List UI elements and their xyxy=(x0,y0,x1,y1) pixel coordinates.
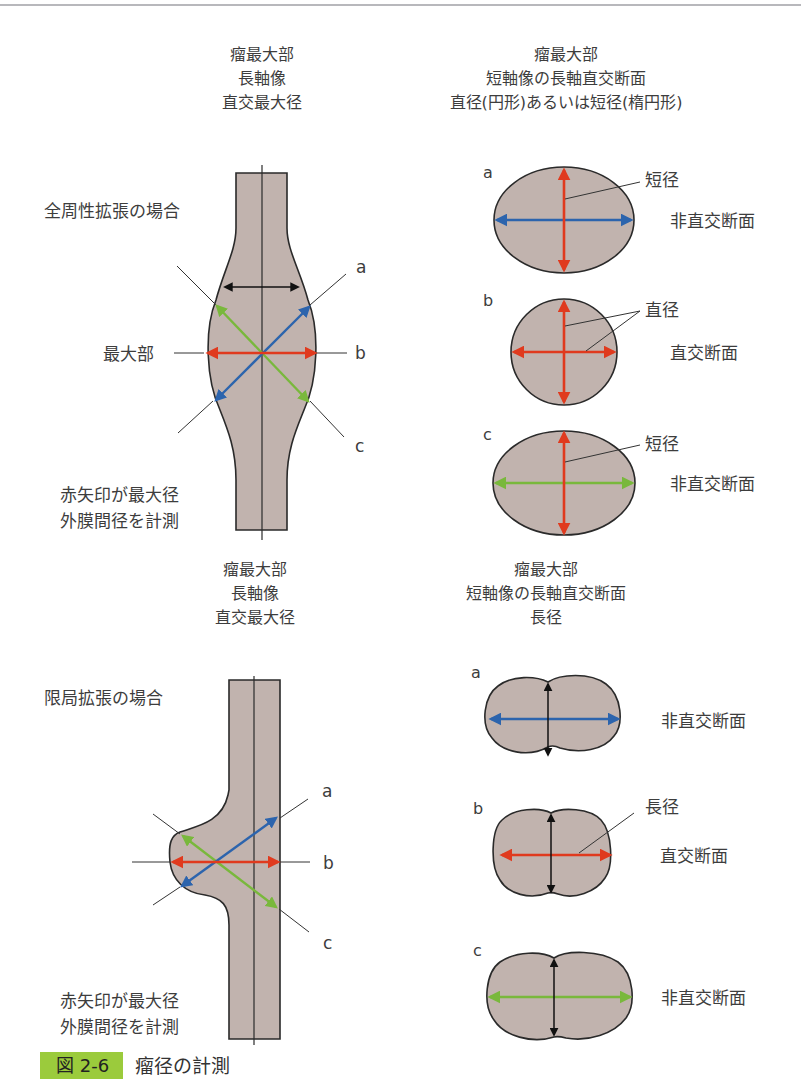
lower-section-a: a 非直交断面 xyxy=(471,663,746,755)
section-letter: c xyxy=(483,425,492,444)
line-label-b: b xyxy=(355,343,366,363)
saccular-case-label: 限局拡張の場合 xyxy=(44,688,163,708)
figure-title: 瘤径の計測 xyxy=(135,1054,230,1078)
header-line: 長軸像 xyxy=(231,584,279,603)
figure-number-badge: 図 2-6 xyxy=(40,1052,123,1079)
upper-section-b: b 直径 直交断面 xyxy=(483,291,738,405)
section-letter: c xyxy=(473,941,482,960)
long-diameter-callout: 長径 xyxy=(645,797,679,817)
upper-long-axis-header: 瘤最大部 長軸像 直交最大径 xyxy=(222,45,302,112)
upper-section-a: a 短径 非直交断面 xyxy=(483,163,755,273)
header-line: 瘤最大部 xyxy=(514,560,578,579)
lower-long-axis-header: 瘤最大部 長軸像 直交最大径 xyxy=(215,560,295,627)
upper-section-c: c 短径 非直交断面 xyxy=(483,425,755,535)
header-line: 長径 xyxy=(530,608,562,627)
header-line: 瘤最大部 xyxy=(230,45,294,64)
short-diameter-callout: 短径 xyxy=(645,434,679,454)
leader-line xyxy=(153,887,180,905)
section-type-label: 非直交断面 xyxy=(661,711,746,731)
upper-short-axis-header: 瘤最大部 短軸像の長軸直交断面 直径(円形)あるいは短径(楕円形) xyxy=(450,45,683,112)
note-line: 外膜間径を計測 xyxy=(60,1017,179,1037)
bilobed-cross-section xyxy=(493,809,611,896)
line-label-b: b xyxy=(323,853,334,873)
section-type-label: 非直交断面 xyxy=(670,474,755,494)
section-type-label: 非直交断面 xyxy=(661,988,746,1008)
leader-line xyxy=(279,909,309,932)
header-line: 瘤最大部 xyxy=(534,45,598,64)
saccular-aneurysm-vessel xyxy=(169,680,280,1039)
aneurysm-diagram: 瘤最大部 長軸像 直交最大径 瘤最大部 短軸像の長軸直交断面 直径(円形)あるい… xyxy=(0,0,801,1082)
leader-line xyxy=(310,401,344,437)
upper-note: 赤矢印が最大径 外膜間径を計測 xyxy=(60,485,179,531)
header-line: 直交最大径 xyxy=(215,608,295,627)
header-line: 長軸像 xyxy=(238,69,286,88)
section-type-label: 直交断面 xyxy=(660,846,728,866)
section-type-label: 非直交断面 xyxy=(670,211,755,231)
leader-line xyxy=(177,266,216,305)
section-letter: b xyxy=(473,799,483,818)
leader-line xyxy=(153,814,180,834)
note-line: 赤矢印が最大径 xyxy=(60,485,179,505)
leader-line xyxy=(280,799,308,818)
lower-section-b: b 長径 直交断面 xyxy=(473,797,728,896)
line-label-c: c xyxy=(355,436,364,456)
header-line: 短軸像の長軸直交断面 xyxy=(486,69,646,88)
header-line: 直交最大径 xyxy=(222,93,302,112)
lower-section-c: c 非直交断面 xyxy=(473,941,746,1040)
short-diameter-callout: 短径 xyxy=(645,170,679,190)
line-label-c: c xyxy=(323,933,332,953)
figure-caption: 図 2-6 瘤径の計測 xyxy=(40,1052,230,1079)
section-letter: a xyxy=(471,663,481,682)
leader-line xyxy=(178,401,213,433)
leader-line xyxy=(310,274,346,305)
note-line: 赤矢印が最大径 xyxy=(60,991,179,1011)
header-line: 直径(円形)あるいは短径(楕円形) xyxy=(450,93,683,112)
lower-note: 赤矢印が最大径 外膜間径を計測 xyxy=(60,991,179,1037)
header-line: 短軸像の長軸直交断面 xyxy=(466,584,626,603)
max-part-label: 最大部 xyxy=(103,344,154,364)
note-line: 外膜間径を計測 xyxy=(60,511,179,531)
fusiform-case-label: 全周性拡張の場合 xyxy=(44,201,180,221)
lower-short-axis-header: 瘤最大部 短軸像の長軸直交断面 長径 xyxy=(466,560,626,627)
diameter-callout: 直径 xyxy=(645,300,679,320)
section-type-label: 直交断面 xyxy=(670,343,738,363)
section-letter: b xyxy=(483,291,493,310)
bilobed-cross-section xyxy=(485,676,620,753)
header-line: 瘤最大部 xyxy=(223,560,287,579)
section-letter: a xyxy=(483,163,493,182)
line-label-a: a xyxy=(356,257,366,277)
line-label-a: a xyxy=(322,781,332,801)
